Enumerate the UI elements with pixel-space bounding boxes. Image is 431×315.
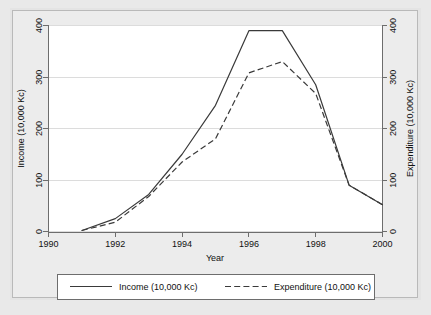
y-axis-left-title: Income (10,000 Kc) (16, 89, 26, 168)
y-axis-left-tick-300: 300 (34, 70, 44, 85)
x-axis-tick-1996: 1996 (239, 239, 259, 249)
y-axis-right-tick-200: 200 (388, 121, 398, 136)
y-axis-right-tick-0: 0 (388, 229, 398, 234)
y-axis-right-tick-100: 100 (388, 173, 398, 188)
legend: Income (10,000 Kc) Expenditure (10,000 K… (57, 274, 374, 299)
chart-figure: 400 300 200 100 0 Income (10,000 Kc) 400… (0, 0, 431, 315)
y-axis-right: 400 300 200 100 0 Expenditure (10,000 Kc… (382, 18, 415, 234)
y-axis-left: 400 300 200 100 0 Income (10,000 Kc) (16, 18, 48, 234)
y-axis-left-tick-400: 400 (34, 18, 44, 33)
x-axis-tick-1992: 1992 (105, 239, 125, 249)
x-axis-tick-1994: 1994 (172, 239, 192, 249)
x-axis-tick-2000: 2000 (372, 239, 392, 249)
y-axis-right-tick-300: 300 (388, 70, 398, 85)
x-axis-tick-1990: 1990 (38, 239, 58, 249)
y-axis-right-title: Expenditure (10,000 Kc) (405, 80, 415, 177)
legend-label-expenditure: Expenditure (10,000 Kc) (274, 282, 371, 292)
y-axis-left-tick-100: 100 (34, 173, 44, 188)
x-axis-tick-1998: 1998 (306, 239, 326, 249)
y-axis-left-tick-200: 200 (34, 121, 44, 136)
legend-label-income: Income (10,000 Kc) (119, 282, 198, 292)
line-chart: 400 300 200 100 0 Income (10,000 Kc) 400… (0, 0, 431, 315)
y-axis-right-tick-400: 400 (388, 18, 398, 33)
x-axis: 1990 1992 1994 1996 1998 2000 Year (38, 232, 392, 263)
y-axis-left-tick-0: 0 (34, 229, 44, 234)
x-axis-title: Year (206, 253, 224, 263)
